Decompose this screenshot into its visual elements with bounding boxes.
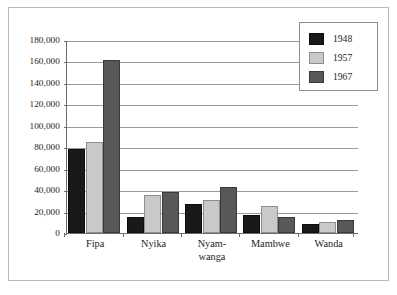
bar (162, 192, 179, 233)
x-axis-category-label: Wanda (292, 238, 366, 251)
legend-label: 1967 (333, 71, 352, 82)
bar (127, 217, 144, 233)
bar (86, 142, 103, 233)
bar-group (185, 41, 237, 233)
legend-swatch (309, 71, 324, 83)
y-axis-tick-label: 60,000 (0, 164, 60, 174)
legend: 194819571967 (299, 22, 378, 91)
y-axis-tick-label: 180,000 (0, 35, 60, 45)
y-axis-tick-label: 80,000 (0, 142, 60, 152)
bar (337, 220, 354, 233)
bar (261, 206, 278, 233)
legend-item[interactable]: 1948 (309, 29, 377, 48)
legend-label: 1957 (333, 52, 352, 63)
bar (278, 217, 295, 233)
y-axis-tick-labels: 020,00040,00060,00080,000100,000120,0001… (0, 0, 62, 295)
y-axis-tick-label: 20,000 (0, 207, 60, 217)
figure: 020,00040,00060,00080,000100,000120,0001… (0, 0, 397, 295)
x-axis-tick-mark (64, 233, 65, 237)
y-axis-tick-label: 120,000 (0, 99, 60, 109)
bar (144, 195, 161, 233)
bar (68, 149, 85, 233)
bar (243, 215, 260, 233)
bar (203, 200, 220, 233)
legend-swatch (309, 52, 324, 64)
bar (220, 187, 237, 233)
legend-item[interactable]: 1967 (309, 67, 377, 86)
x-axis-tick-mark (353, 233, 354, 237)
bar-group (127, 41, 179, 233)
legend-swatch (309, 33, 324, 45)
plot-wrapper: 020,00040,00060,00080,000100,000120,0001… (0, 0, 397, 295)
x-axis-tick-mark (181, 233, 182, 237)
y-axis-tick-label: 40,000 (0, 185, 60, 195)
y-axis-tick-label: 140,000 (0, 78, 60, 88)
x-axis-tick-mark (239, 233, 240, 237)
bar (185, 204, 202, 233)
x-axis-category-labels: FipaNyikaNyam- wangaMambweWanda (66, 238, 358, 286)
legend-item[interactable]: 1957 (309, 48, 377, 67)
bar (319, 222, 336, 233)
y-axis-tick-label: 0 (0, 228, 60, 238)
bar-group (243, 41, 295, 233)
bar-group (68, 41, 120, 233)
bar (302, 224, 319, 233)
y-axis-tick-label: 160,000 (0, 56, 60, 66)
x-axis-tick-mark (298, 233, 299, 237)
y-axis-tick-label: 100,000 (0, 121, 60, 131)
bar (103, 60, 120, 233)
x-axis-tick-mark (123, 233, 124, 237)
legend-label: 1948 (333, 33, 352, 44)
